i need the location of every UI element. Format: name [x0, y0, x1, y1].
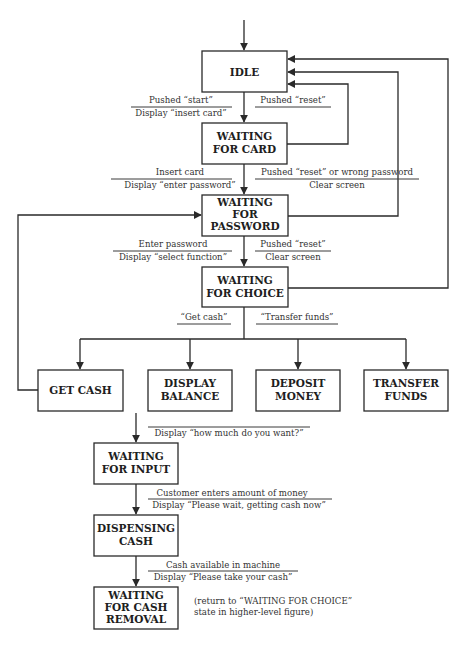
transition-event: Enter password [139, 239, 208, 249]
transition-event: Pushed “reset” or wrong password [261, 167, 414, 177]
state-label: FOR CASH [105, 601, 168, 613]
transition-action: Display “Please take your cash” [154, 572, 293, 582]
transition-action: Clear screen [309, 180, 365, 190]
transition-event: Insert card [156, 167, 205, 177]
state-label: FOR [232, 208, 258, 220]
state-label: WAITING [107, 589, 164, 601]
state-label: FOR CHOICE [206, 287, 284, 299]
transition-event: “Transfer funds” [261, 312, 334, 322]
state-label: PASSWORD [211, 220, 280, 232]
transition-cash-to-input: Display “how much do you want?” [148, 427, 310, 438]
state-label: DEPOSIT [271, 377, 326, 389]
loop-card-to-idle [287, 84, 348, 144]
state-label: BALANCE [161, 390, 220, 402]
transition-action: Display “enter password” [124, 180, 235, 190]
state-label: WAITING [107, 450, 164, 462]
state-label: FOR CARD [213, 143, 276, 155]
state-waiting-for-cash-removal: WAITING FOR CASH REMOVAL [94, 587, 178, 629]
transition-action: Display “Please wait, getting cash now” [152, 500, 326, 510]
transition-card-to-password: Insert card Display “enter password” [111, 167, 236, 190]
state-label: FOR INPUT [102, 463, 171, 475]
state-label: DISPLAY [164, 377, 217, 389]
state-label: CASH [119, 535, 153, 547]
state-waiting-for-card: WAITING FOR CARD [202, 123, 287, 164]
transition-card-reset: Pushed “reset” [255, 95, 331, 107]
state-get-cash: GET CASH [38, 370, 123, 411]
note-line: (return to “WAITING FOR CHOICE” [194, 596, 352, 606]
return-note: (return to “WAITING FOR CHOICE” state in… [194, 596, 352, 617]
transition-choice-reset: Pushed “reset” Clear screen [255, 239, 331, 262]
state-label: DISPENSING [97, 522, 175, 534]
state-waiting-for-choice: WAITING FOR CHOICE [202, 267, 288, 307]
state-transfer-funds: TRANSFER FUNDS [364, 370, 448, 411]
state-display-balance: DISPLAY BALANCE [148, 370, 232, 411]
transition-event: Pushed “start” [149, 95, 213, 105]
state-label: WAITING [216, 274, 273, 286]
transition-action: Display “how much do you want?” [154, 428, 303, 438]
transition-input-to-dispensing: Customer enters amount of money Display … [148, 488, 332, 510]
transition-action: Display “select function” [119, 252, 227, 262]
state-label: WAITING [216, 130, 273, 142]
transition-event: “Get cash” [181, 312, 228, 322]
state-label: FUNDS [385, 390, 428, 402]
state-deposit-money: DEPOSIT MONEY [256, 370, 340, 411]
transition-choice-get-cash: “Get cash” [177, 312, 231, 324]
state-label: GET CASH [49, 384, 112, 396]
state-label: REMOVAL [106, 613, 167, 625]
state-dispensing-cash: DISPENSING CASH [94, 515, 178, 556]
transition-idle-to-card: Pushed “start” Display “insert card” [131, 95, 232, 118]
state-idle: IDLE [202, 51, 287, 92]
atm-state-diagram: IDLE WAITING FOR CARD WAITING FOR PASSWO… [0, 0, 468, 646]
state-label: WAITING [216, 196, 273, 208]
state-label: TRANSFER [373, 377, 439, 389]
state-label: MONEY [275, 390, 321, 402]
transition-event: Pushed “reset” [260, 95, 326, 105]
transition-password-reset: Pushed “reset” or wrong password Clear s… [255, 167, 419, 190]
transition-password-to-choice: Enter password Display “select function” [113, 239, 232, 262]
note-line: state in higher-level figure) [194, 607, 313, 617]
transition-action: Display “insert card” [135, 108, 226, 118]
state-waiting-for-input: WAITING FOR INPUT [94, 443, 178, 484]
transition-dispensing-to-removal: Cash available in machine Display “Pleas… [148, 560, 298, 582]
transition-choice-transfer: “Transfer funds” [256, 312, 338, 324]
transition-event: Pushed “reset” [260, 239, 326, 249]
transition-action: Clear screen [265, 252, 321, 262]
transition-event: Customer enters amount of money [156, 488, 307, 498]
state-waiting-for-password: WAITING FOR PASSWORD [202, 195, 288, 236]
state-label: IDLE [230, 66, 259, 78]
transition-event: Cash available in machine [166, 560, 280, 570]
